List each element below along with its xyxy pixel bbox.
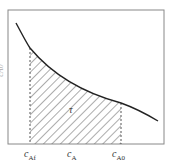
y-axis-label: cA0 (0, 64, 5, 76)
hatched-area (30, 40, 121, 144)
area-label-tau: τ (69, 104, 73, 115)
diagram-canvas (0, 0, 172, 166)
x-label-ca0: cA0 (112, 148, 125, 162)
x-label-caf: cAf (24, 148, 36, 162)
x-label-ca: cA (67, 148, 77, 162)
